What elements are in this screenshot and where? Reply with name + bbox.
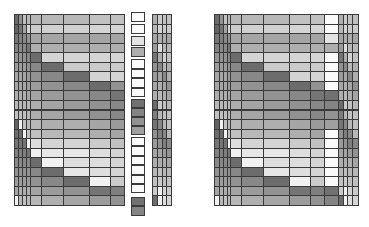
heatmap-cell [110, 195, 125, 206]
heatmap-cell [89, 195, 111, 206]
legend-box [131, 165, 145, 175]
heatmap-cell [41, 195, 64, 206]
legend-box [131, 59, 145, 69]
legend-box [131, 12, 145, 22]
legend-box [131, 108, 145, 117]
legend-box [131, 99, 145, 108]
heatmap-cell [352, 195, 359, 206]
legend-box [131, 156, 145, 165]
legend-box [131, 69, 145, 78]
heatmap-cell [63, 195, 90, 206]
heatmap-cell [310, 195, 325, 206]
heatmap-cell [241, 195, 264, 206]
legend-box [131, 78, 145, 88]
legend-box [131, 146, 145, 156]
legend-box [131, 126, 145, 135]
legend-box [131, 137, 145, 146]
heatmap-cell [324, 195, 339, 206]
heatmap-cell [166, 195, 172, 206]
legend-box [131, 206, 145, 216]
legend-box [131, 197, 145, 206]
heatmap-cell [289, 195, 311, 206]
legend-box [131, 117, 145, 126]
legend-box [131, 47, 145, 57]
heatmap-cell [263, 195, 290, 206]
legend-box [131, 24, 145, 34]
legend-box [131, 88, 145, 97]
legend-box [131, 36, 145, 46]
legend-box [131, 175, 145, 184]
legend-box [131, 184, 145, 193]
